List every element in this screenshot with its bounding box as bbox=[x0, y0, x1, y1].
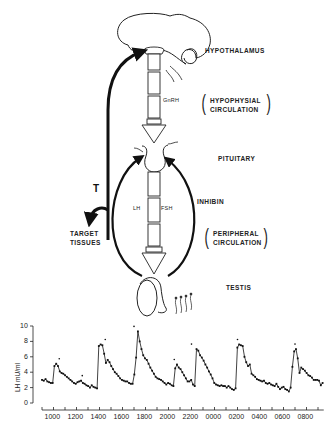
data-point bbox=[256, 378, 258, 380]
data-point bbox=[130, 383, 132, 385]
data-point bbox=[144, 357, 146, 359]
data-point bbox=[180, 368, 182, 370]
data-point bbox=[306, 372, 308, 374]
data-point bbox=[263, 380, 265, 382]
x-tick-label: 0800 bbox=[298, 413, 314, 420]
data-point bbox=[247, 365, 249, 367]
data-point bbox=[185, 377, 187, 379]
data-point bbox=[82, 382, 84, 384]
data-point bbox=[236, 347, 238, 349]
pulse-marker bbox=[58, 358, 60, 360]
data-point bbox=[91, 384, 93, 386]
data-point bbox=[281, 387, 283, 389]
data-point bbox=[116, 373, 118, 375]
data-point bbox=[109, 361, 111, 363]
data-point bbox=[206, 367, 208, 369]
data-point bbox=[96, 387, 98, 389]
data-point bbox=[293, 351, 295, 353]
data-point bbox=[84, 383, 86, 385]
data-point bbox=[320, 384, 322, 386]
data-point bbox=[45, 378, 47, 380]
data-point bbox=[288, 391, 290, 393]
data-point bbox=[85, 384, 87, 386]
data-point bbox=[73, 382, 75, 384]
data-point bbox=[62, 373, 64, 375]
pulse-marker bbox=[133, 326, 135, 328]
data-point bbox=[178, 367, 180, 369]
data-point bbox=[187, 381, 189, 383]
data-point bbox=[176, 364, 178, 366]
data-point bbox=[224, 385, 226, 387]
data-point bbox=[299, 372, 301, 374]
data-point bbox=[254, 376, 256, 378]
data-point bbox=[192, 384, 194, 386]
x-tick-label: 0200 bbox=[229, 413, 245, 420]
data-point bbox=[249, 364, 251, 366]
data-point bbox=[89, 387, 91, 389]
data-point bbox=[260, 380, 262, 382]
data-point bbox=[279, 388, 281, 390]
data-point bbox=[274, 385, 276, 387]
data-point bbox=[199, 354, 201, 356]
data-point bbox=[240, 344, 242, 346]
data-point bbox=[48, 381, 50, 383]
data-point bbox=[251, 373, 253, 375]
data-point bbox=[217, 384, 219, 386]
data-point bbox=[155, 376, 157, 378]
pulse-marker bbox=[191, 343, 193, 345]
data-point bbox=[61, 372, 63, 374]
y-tick-label: 2 bbox=[24, 384, 28, 391]
data-point bbox=[126, 381, 128, 383]
data-point bbox=[125, 381, 127, 383]
data-point bbox=[219, 385, 221, 387]
x-tick-label: 2000 bbox=[160, 413, 176, 420]
x-tick-label: 1400 bbox=[91, 413, 107, 420]
data-point bbox=[158, 378, 160, 380]
data-point bbox=[93, 386, 95, 388]
data-point bbox=[181, 371, 183, 373]
data-point bbox=[110, 365, 112, 367]
data-point bbox=[201, 357, 203, 359]
data-point bbox=[212, 377, 214, 379]
data-point bbox=[151, 370, 153, 372]
data-point bbox=[283, 386, 285, 388]
data-point bbox=[231, 388, 233, 390]
data-point bbox=[107, 359, 109, 361]
data-point bbox=[64, 374, 66, 376]
data-point bbox=[267, 383, 269, 385]
data-point bbox=[123, 380, 125, 382]
data-point bbox=[141, 348, 143, 350]
data-point bbox=[270, 384, 272, 386]
data-point bbox=[77, 381, 79, 383]
lh-pulse-chart bbox=[0, 0, 329, 430]
data-point bbox=[290, 387, 292, 389]
data-point bbox=[98, 345, 100, 347]
data-point bbox=[100, 344, 102, 346]
data-point bbox=[316, 379, 318, 381]
data-point bbox=[311, 377, 313, 379]
data-point bbox=[183, 374, 185, 376]
y-tick-label: 10 bbox=[20, 322, 28, 329]
data-point bbox=[197, 350, 199, 352]
data-point bbox=[277, 386, 279, 388]
data-point bbox=[245, 361, 247, 363]
data-point bbox=[160, 379, 162, 381]
data-point bbox=[149, 367, 151, 369]
data-point bbox=[121, 379, 123, 381]
x-tick-label: 1000 bbox=[45, 413, 61, 420]
data-point bbox=[119, 377, 121, 379]
data-point bbox=[112, 368, 114, 370]
data-point bbox=[41, 379, 43, 381]
x-tick-label: 1600 bbox=[114, 413, 130, 420]
data-point bbox=[78, 381, 80, 383]
data-point bbox=[71, 381, 73, 383]
data-point bbox=[43, 380, 45, 382]
data-point bbox=[173, 385, 175, 387]
data-point bbox=[322, 382, 324, 384]
data-point bbox=[220, 384, 222, 386]
data-point bbox=[244, 356, 246, 358]
data-point bbox=[94, 387, 96, 389]
data-point bbox=[292, 366, 294, 368]
data-point bbox=[165, 384, 167, 386]
data-point bbox=[252, 374, 254, 376]
